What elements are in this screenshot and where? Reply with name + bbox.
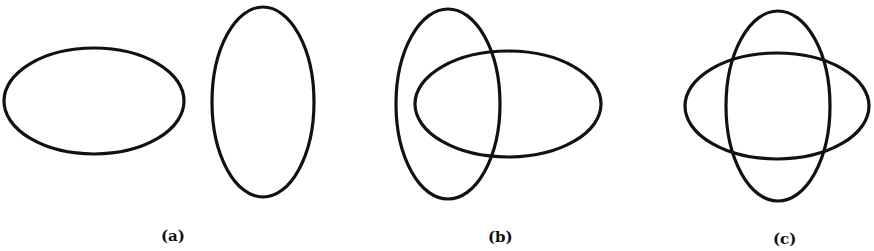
panel-a — [4, 7, 314, 197]
panel-c-vertical-ellipse — [726, 11, 830, 201]
panel-c-horizontal-ellipse — [685, 53, 869, 159]
panel-b-horizontal-ellipse — [415, 51, 601, 157]
panel-a-label: (a) — [161, 227, 185, 245]
panel-c-label: (c) — [773, 230, 796, 248]
panel-b-label: (b) — [488, 228, 513, 246]
ellipse-overlap-diagram — [0, 0, 874, 251]
panel-b-vertical-ellipse — [396, 9, 500, 199]
panel-a-horizontal-ellipse — [4, 48, 184, 154]
panel-c — [685, 11, 869, 201]
panel-a-vertical-ellipse — [212, 7, 314, 197]
panel-b — [396, 9, 601, 199]
